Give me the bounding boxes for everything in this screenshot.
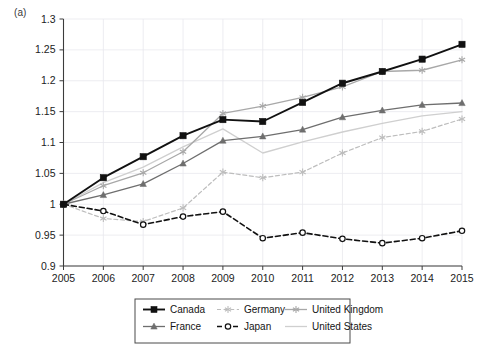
x-tick-label: 2010: [251, 272, 275, 284]
data-point-marker: [379, 68, 385, 74]
data-point-marker: [141, 222, 146, 227]
x-tick-label: 2013: [371, 272, 395, 284]
data-point-marker: [100, 215, 106, 222]
data-point-marker: [225, 324, 230, 329]
x-tick-label: 2011: [291, 272, 314, 284]
x-tick-label: 2012: [331, 272, 355, 284]
data-point-marker: [459, 115, 465, 122]
legend-item-united-kingdom[interactable]: United Kingdom: [285, 304, 383, 315]
gridlines: [64, 19, 463, 266]
data-point-marker: [380, 240, 385, 245]
x-tick-label: 2015: [450, 272, 474, 284]
data-point-marker: [101, 208, 106, 213]
data-point-marker: [459, 41, 465, 47]
line-chart: 0.90.9511.051.11.151.21.251.3 2005200620…: [0, 0, 484, 360]
y-tick-label: 1.2: [41, 74, 56, 86]
legend-label: Canada: [170, 304, 205, 315]
x-tick-label: 2014: [410, 272, 434, 284]
y-tick-label: 1.15: [35, 105, 56, 117]
data-point-marker: [260, 118, 266, 124]
legend-item-germany[interactable]: Germany: [217, 304, 285, 315]
data-point-marker: [299, 169, 305, 176]
legend-item-united-states[interactable]: United States: [285, 321, 372, 332]
y-tick-label: 0.9: [41, 260, 56, 272]
data-point-marker: [180, 214, 185, 219]
y-tick-label: 1.25: [35, 43, 56, 55]
legend-item-japan[interactable]: Japan: [217, 321, 271, 332]
data-point-marker: [300, 99, 306, 105]
legend-item-canada[interactable]: Canada: [143, 304, 205, 315]
legend-label: Germany: [244, 304, 285, 315]
x-tick-label: 2008: [171, 272, 195, 284]
y-axis-tick-labels: 0.90.9511.051.11.151.21.251.3: [35, 13, 56, 272]
data-point-marker: [220, 117, 226, 123]
data-point-marker: [339, 80, 345, 86]
x-axis-tick-labels: 2005200620072008200920102011201220132014…: [52, 272, 474, 284]
x-tick-label: 2005: [52, 272, 76, 284]
data-point-marker: [459, 228, 464, 233]
chart-legend: CanadaGermanyUnited KingdomFranceJapanUn…: [135, 299, 383, 343]
data-point-marker: [60, 201, 66, 207]
axes: [60, 19, 463, 270]
data-point-marker: [140, 169, 146, 176]
data-point-marker: [100, 175, 106, 181]
data-point-marker: [340, 236, 345, 241]
y-tick-label: 0.95: [35, 229, 56, 241]
data-point-marker: [140, 180, 146, 186]
panel-label: (a): [14, 7, 27, 18]
y-tick-label: 1.3: [41, 13, 56, 25]
data-point-marker: [140, 154, 146, 160]
legend-label: United States: [312, 321, 372, 332]
legend-item-france[interactable]: France: [143, 321, 202, 332]
data-point-marker: [419, 236, 424, 241]
y-tick-label: 1.05: [35, 167, 56, 179]
data-point-marker: [260, 236, 265, 241]
data-point-marker: [419, 56, 425, 62]
legend-label: Japan: [244, 321, 271, 332]
data-point-marker: [151, 307, 157, 313]
legend-label: France: [170, 321, 202, 332]
data-point-marker: [180, 160, 186, 166]
x-tick-label: 2009: [211, 272, 235, 284]
legend-label: United Kingdom: [312, 304, 383, 315]
data-point-marker: [339, 149, 345, 156]
y-tick-label: 1: [50, 198, 56, 210]
data-point-marker: [220, 209, 225, 214]
x-tick-label: 2006: [92, 272, 116, 284]
data-point-marker: [180, 133, 186, 139]
x-tick-label: 2007: [132, 272, 156, 284]
y-tick-label: 1.1: [41, 136, 56, 148]
chart-figure: (a) 0.90.9511.051.11.151.21.251.3 200520…: [0, 0, 484, 360]
data-point-marker: [300, 230, 305, 235]
